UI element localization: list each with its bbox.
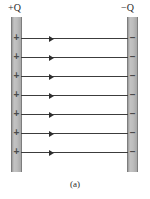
field-line: [21, 114, 128, 115]
field-line-arrow-icon: [49, 112, 54, 118]
plate-charge-sign: –: [127, 71, 138, 81]
field-line-arrow-icon: [49, 131, 54, 137]
field-line: [21, 152, 128, 153]
field-line-arrow-icon: [49, 36, 54, 42]
capacitor-figure: +Q −Q +++++++ ––––––– (a): [0, 0, 150, 199]
field-line-arrow-icon: [49, 55, 54, 61]
field-line: [21, 95, 128, 96]
plate-charge-sign: –: [127, 52, 138, 62]
field-line-arrow-icon: [49, 93, 54, 99]
plate-charge-sign: –: [127, 90, 138, 100]
positive-charge-label: +Q: [8, 2, 21, 13]
field-line: [21, 76, 128, 77]
negative-charge-label: −Q: [121, 2, 134, 13]
field-line: [21, 38, 128, 39]
positive-charge-label-text: +Q: [8, 2, 21, 13]
field-line-arrow-icon: [49, 74, 54, 80]
field-line-arrow-icon: [49, 150, 54, 156]
field-line: [21, 57, 128, 58]
negative-charge-label-text: −Q: [121, 2, 134, 13]
field-line: [21, 133, 128, 134]
plate-charge-sign: –: [127, 128, 138, 138]
plate-charge-sign: –: [127, 147, 138, 157]
figure-caption: (a): [0, 179, 150, 189]
plate-charge-sign: –: [127, 109, 138, 119]
plate-charge-sign: –: [127, 33, 138, 43]
